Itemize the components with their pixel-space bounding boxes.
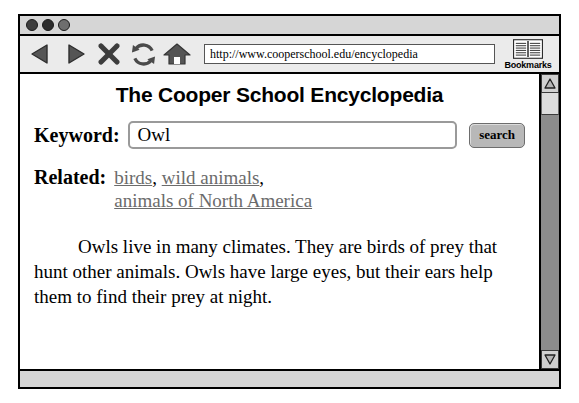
bookmarks-label: Bookmarks xyxy=(504,60,551,70)
keyword-search-row: Keyword: Owl search xyxy=(34,121,525,149)
reload-icon[interactable] xyxy=(126,38,160,70)
book-icon xyxy=(513,39,543,59)
related-link-separator: , xyxy=(152,167,162,188)
related-link-birds[interactable]: birds xyxy=(114,167,152,188)
window-maximize-button[interactable] xyxy=(58,19,70,31)
page-content: The Cooper School Encyclopedia Keyword: … xyxy=(20,74,539,369)
title-bar xyxy=(20,16,559,36)
related-row: Related: birds, wild animals,animals of … xyxy=(34,166,525,212)
page-area: The Cooper School Encyclopedia Keyword: … xyxy=(20,74,559,371)
related-link-animals-of-north-america[interactable]: animals of North America xyxy=(114,190,312,211)
url-input[interactable]: http://www.cooperschool.edu/encyclopedia xyxy=(204,44,495,64)
keyword-input[interactable]: Owl xyxy=(128,121,458,149)
related-link-separator: , xyxy=(259,167,264,188)
vertical-scrollbar[interactable] xyxy=(539,74,559,369)
window-minimize-button[interactable] xyxy=(42,19,54,31)
forward-icon[interactable] xyxy=(58,38,92,70)
scrollbar-track[interactable] xyxy=(541,115,559,350)
related-links-list: birds, wild animals,animals of North Ame… xyxy=(114,166,312,212)
page-title: The Cooper School Encyclopedia xyxy=(34,83,525,107)
bookmarks-button[interactable]: Bookmarks xyxy=(501,38,555,70)
scroll-up-button[interactable] xyxy=(541,74,559,93)
scrollbar-thumb[interactable] xyxy=(541,93,559,115)
home-icon[interactable] xyxy=(160,38,194,70)
browser-toolbar: http://www.cooperschool.edu/encyclopedia xyxy=(20,36,559,74)
related-link-wild-animals[interactable]: wild animals xyxy=(162,167,260,188)
back-icon[interactable] xyxy=(24,38,58,70)
article-paragraph: Owls live in many climates. They are bir… xyxy=(34,234,525,309)
related-label: Related: xyxy=(34,166,106,189)
triangle-up-icon xyxy=(544,78,556,89)
triangle-down-icon xyxy=(544,354,556,365)
browser-window: http://www.cooperschool.edu/encyclopedia xyxy=(18,14,561,389)
keyword-label: Keyword: xyxy=(34,124,120,147)
window-close-button[interactable] xyxy=(26,19,38,31)
url-bar-container: http://www.cooperschool.edu/encyclopedia xyxy=(194,44,501,64)
status-bar xyxy=(20,371,559,387)
stop-icon[interactable] xyxy=(92,38,126,70)
scroll-down-button[interactable] xyxy=(541,350,559,369)
search-button[interactable]: search xyxy=(469,123,525,148)
